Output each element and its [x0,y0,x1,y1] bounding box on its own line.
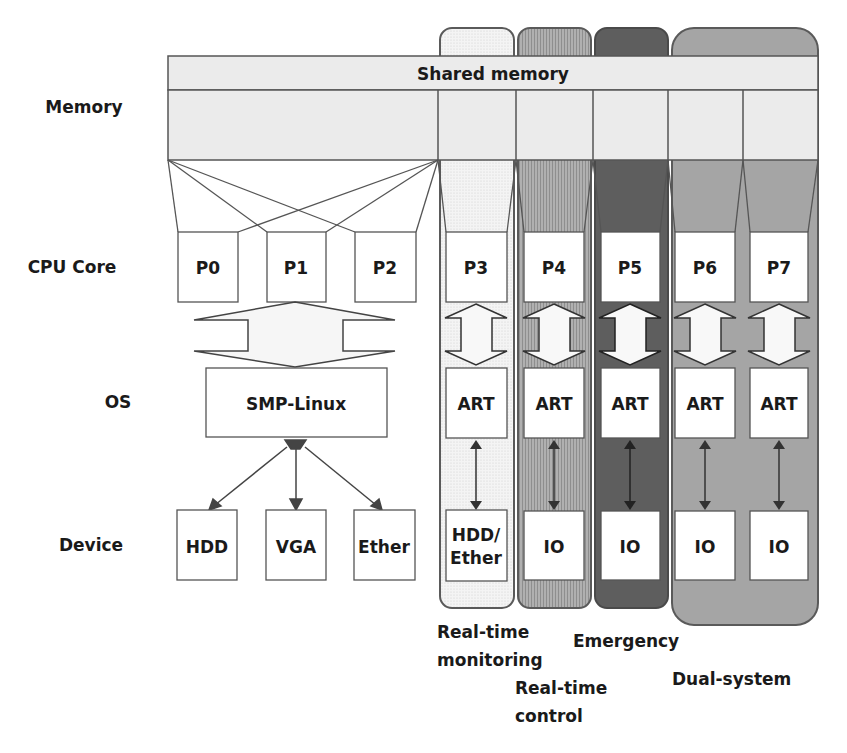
core-label: P1 [284,258,308,278]
core-label: P2 [373,258,397,278]
group-label-realtime-control-line1: Real-time [515,678,607,698]
rt-column-p5: P5 ART IO [599,232,661,580]
row-label-memory: Memory [45,97,122,117]
group-label-emergency: Emergency [573,631,679,651]
device-label: HDD [186,537,228,557]
smp-device-arrows [209,440,382,510]
row-label-os: OS [105,392,132,412]
device-label: Ether [358,537,410,557]
core-label: P5 [618,258,642,278]
rt-column-p4: P4 ART IO [523,232,585,580]
device-hdd: HDD [177,510,237,580]
rt-column-p6: P6 ART IO [674,232,736,580]
group-label-realtime-monitoring-line1: Real-time [437,622,529,642]
architecture-diagram: Shared memory Memory CPU Core OS Device … [0,0,847,753]
core-label: P4 [542,258,566,278]
device-label: IO [695,537,716,557]
core-label: P0 [196,258,220,278]
device-label: IO [769,537,790,557]
os-label: ART [535,394,572,414]
core-label: P7 [767,258,791,278]
rt-column-p3: P3 ART HDD/ Ether [445,232,507,581]
core-label: P6 [693,258,717,278]
os-label: ART [760,394,797,414]
core-p0: P0 [178,232,238,302]
group-label-dual-system: Dual-system [672,669,791,689]
device-vga: VGA [266,510,326,580]
os-label: ART [686,394,723,414]
device-label: Ether [450,548,502,568]
device-label: HDD/ [452,525,501,545]
shared-memory: Shared memory [168,56,818,160]
core-p2: P2 [355,232,416,302]
rt-column-p7: P7 ART IO [748,232,810,580]
os-label: SMP-Linux [246,394,346,414]
device-hdd-ether [446,510,507,581]
row-label-device: Device [59,535,123,555]
shared-memory-title: Shared memory [417,64,569,84]
smp-linux-os: SMP-Linux [206,368,387,437]
device-label: VGA [276,537,317,557]
device-label: IO [544,537,565,557]
group-label-realtime-control-line2: control [515,706,583,726]
row-label-cpu-core: CPU Core [28,257,117,277]
core-label: P3 [464,258,488,278]
smp-bus-double-arrow-icon [194,302,395,367]
hub-icon [285,440,306,449]
device-label: IO [620,537,641,557]
smp-memory-bus-lines [168,160,446,232]
device-ether: Ether [354,510,415,580]
os-label: ART [457,394,494,414]
os-label: ART [611,394,648,414]
group-label-realtime-monitoring-line2: monitoring [437,650,543,670]
core-p1: P1 [267,232,326,302]
